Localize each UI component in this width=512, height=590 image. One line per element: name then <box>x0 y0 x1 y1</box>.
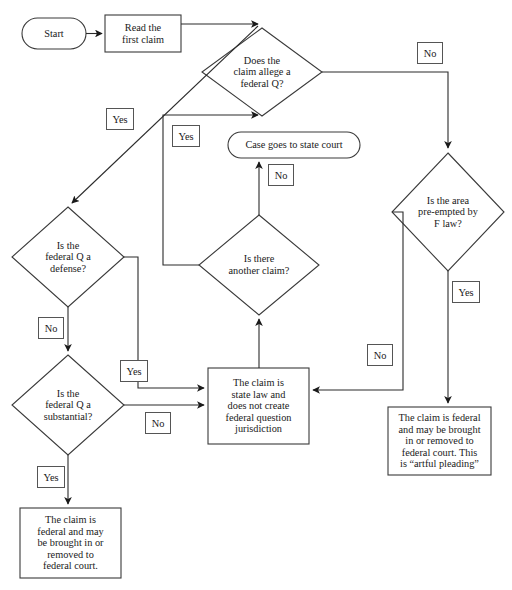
node-another-claim-shape <box>199 215 319 315</box>
edge-label-another-claim-no: No <box>268 164 294 186</box>
edge-label-fq-no: No <box>417 42 443 64</box>
node-state-law-claim-shape <box>208 368 309 444</box>
node-start-shape <box>22 18 86 49</box>
node-preempted-shape <box>392 153 504 271</box>
edge-label-another-claim-yes-up: Yes <box>172 125 200 147</box>
node-federal-claim-shape <box>20 508 121 578</box>
edge-label-preempted-no: No <box>367 344 393 366</box>
edge-label-defense-no: No <box>38 317 64 339</box>
node-is-defense-shape <box>12 207 124 307</box>
edge-label-substantial-yes-right: Yes <box>120 360 148 382</box>
node-alleges-fq-shape <box>202 28 322 116</box>
edge-label-defense-yes: Yes <box>106 108 134 130</box>
node-federal-artful-shape <box>388 407 491 475</box>
edge-label-substantial-no: No <box>145 412 171 434</box>
node-read-claim-shape <box>105 15 181 52</box>
edge-label-substantial-yes-down: Yes <box>37 466 65 488</box>
node-is-substantial-shape <box>12 355 124 455</box>
flowchart-graphics <box>0 0 512 590</box>
flowchart-canvas: Start Read the first claim Does the clai… <box>0 0 512 590</box>
node-state-court-shape <box>228 132 360 158</box>
edge-label-preempted-yes: Yes <box>452 281 480 303</box>
